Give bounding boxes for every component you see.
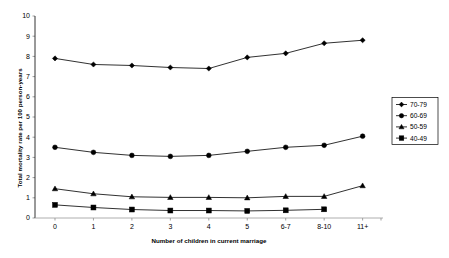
chart-figure: Total mortality rate per 100 person-year… <box>0 0 449 258</box>
y-tick-label: 10 <box>22 12 30 19</box>
series-line-70-79 <box>55 40 363 68</box>
data-point-40-49 <box>245 208 250 213</box>
data-point-60-69 <box>283 145 288 150</box>
x-axis-title: Number of children in current marriage <box>152 237 267 244</box>
data-point-40-49 <box>91 205 96 210</box>
data-point-60-69 <box>53 145 58 150</box>
data-point-70-79 <box>168 65 173 70</box>
data-point-60-69 <box>245 149 250 154</box>
data-point-70-79 <box>245 55 250 60</box>
data-point-60-69 <box>168 154 173 159</box>
data-point-60-69 <box>206 153 211 158</box>
data-point-60-69 <box>322 143 327 148</box>
data-point-40-49 <box>283 208 288 213</box>
data-point-50-59 <box>52 186 57 191</box>
x-tick-label: 6-7 <box>281 223 291 230</box>
x-tick-label: 11+ <box>357 223 368 230</box>
y-tick-label: 4 <box>26 134 30 141</box>
data-point-60-69 <box>91 150 96 155</box>
x-axis-title-text: Number of children in current marriage <box>152 237 267 244</box>
data-point-70-79 <box>129 63 134 68</box>
y-tick-label: 3 <box>26 154 30 161</box>
axis-lines <box>35 16 383 218</box>
data-point-40-49 <box>129 207 134 212</box>
y-tick-label: 2 <box>26 174 30 181</box>
y-tick-label: 7 <box>26 73 30 80</box>
data-point-40-49 <box>168 208 173 213</box>
y-tick-label: 6 <box>26 93 30 100</box>
data-point-70-79 <box>360 38 365 43</box>
y-tick-label: 1 <box>26 194 30 201</box>
y-tick-label: 0 <box>26 214 30 221</box>
legend-label-60-69: 60-69 <box>410 112 427 119</box>
legend-marker-40-49 <box>399 136 404 141</box>
data-point-40-49 <box>322 207 327 212</box>
data-point-70-79 <box>322 41 327 46</box>
series-40-49 <box>53 202 327 213</box>
series-50-59 <box>52 183 365 200</box>
x-tick-label: 1 <box>91 223 95 230</box>
data-point-60-69 <box>130 153 135 158</box>
legend-marker-60-69 <box>399 113 403 117</box>
x-axis-tick-labels: 0123456-78-1011+ <box>53 218 381 230</box>
x-tick-label: 0 <box>53 223 57 230</box>
y-tick-label: 8 <box>26 53 30 60</box>
data-point-60-69 <box>360 134 365 139</box>
x-tick-label: 5 <box>245 223 249 230</box>
x-tick-label: 8-10 <box>317 223 331 230</box>
y-axis-title-text: Total mortality rate per 100 person-year… <box>16 68 23 188</box>
data-point-70-79 <box>52 56 57 61</box>
y-tick-label: 5 <box>26 113 30 120</box>
x-tick-label: 2 <box>130 223 134 230</box>
legend-label-70-79: 70-79 <box>410 101 427 108</box>
data-point-50-59 <box>360 183 365 188</box>
chart-legend: 70-7960-6950-5940-49 <box>392 98 438 145</box>
series-60-69 <box>53 134 365 159</box>
y-tick-label: 9 <box>26 33 30 40</box>
legend-label-40-49: 40-49 <box>410 135 427 142</box>
data-point-40-49 <box>53 202 58 207</box>
x-tick-label: 3 <box>168 223 172 230</box>
data-point-70-79 <box>91 62 96 67</box>
data-point-70-79 <box>283 51 288 56</box>
y-axis-title: Total mortality rate per 100 person-year… <box>16 68 23 188</box>
mortality-line-chart: Total mortality rate per 100 person-year… <box>0 0 449 258</box>
y-axis-tick-labels: 012345678910 <box>22 12 35 221</box>
data-point-40-49 <box>206 208 211 213</box>
series-70-79 <box>52 38 365 71</box>
x-tick-label: 4 <box>207 223 211 230</box>
series-layer <box>52 38 365 214</box>
data-point-70-79 <box>206 66 211 71</box>
legend-label-50-59: 50-59 <box>410 123 427 130</box>
